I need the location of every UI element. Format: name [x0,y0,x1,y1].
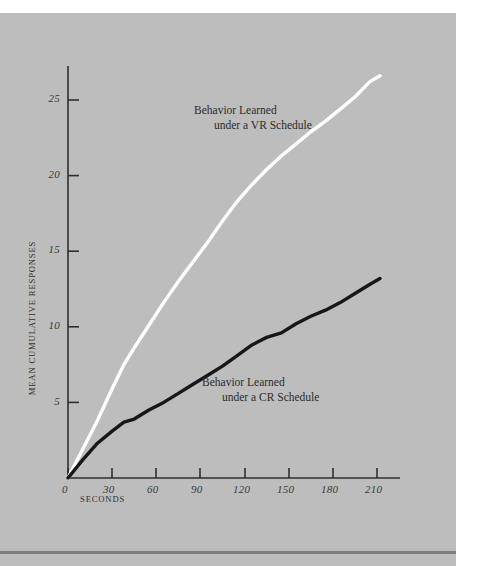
y-tick-label-5: 5 [34,395,60,407]
annotation-vr-line2: under a VR Schedule [194,118,312,133]
page-right-margin [456,0,477,566]
x-axis-title: SECONDS [80,494,125,504]
x-tick-label-60: 60 [147,483,159,495]
y-tick-label-15: 15 [34,243,60,255]
y-axis-title: MEAN CUMULATIVE RESPONSES [27,223,37,413]
y-tick-label-20: 20 [34,168,60,180]
y-tick-label-25: 25 [34,92,60,104]
footer-rule [0,551,456,554]
series-line-vr [68,76,380,478]
annotation-vr-line1: Behavior Learned [194,104,277,116]
x-tick-label-120: 120 [233,483,250,495]
page-top-margin [0,0,477,13]
x-tick-label-210: 210 [365,483,382,495]
annotation-vr-schedule: Behavior Learned under a VR Schedule [194,103,312,133]
figure-panel: 5 10 15 20 25 0 30 60 90 120 150 180 210… [0,13,456,566]
annotation-cr-line2: under a CR Schedule [202,390,319,405]
x-tick-label-180: 180 [321,483,338,495]
cumulative-response-line-chart [0,13,456,566]
annotation-cr-schedule: Behavior Learned under a CR Schedule [202,375,319,405]
x-axis-ticks [68,468,377,478]
x-tick-label-90: 90 [191,483,203,495]
annotation-cr-line1: Behavior Learned [202,376,285,388]
y-tick-label-10: 10 [34,319,60,331]
x-tick-label-0: 0 [62,483,68,495]
chart-plot-area: 5 10 15 20 25 0 30 60 90 120 150 180 210… [0,13,456,566]
y-axis-ticks [68,100,79,402]
x-tick-label-150: 150 [277,483,294,495]
